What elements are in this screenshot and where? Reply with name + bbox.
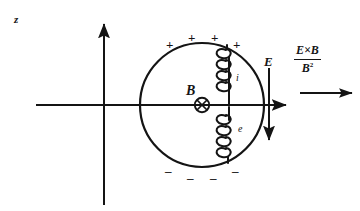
formula-numerator: E×B	[294, 44, 321, 60]
magnetic-field-label: B	[186, 84, 195, 98]
formula-denominator-base: B	[302, 61, 310, 75]
positive-charge-sign: +	[233, 38, 240, 51]
negative-charge-sign: –	[232, 164, 239, 177]
physics-diagram	[0, 0, 360, 211]
positive-charge-sign: +	[188, 31, 195, 44]
electron-label: e	[238, 124, 242, 134]
negative-charge-sign: –	[187, 171, 194, 184]
ion-label: i	[236, 73, 239, 83]
negative-charge-sign: –	[165, 164, 172, 177]
ion-helix-path	[217, 45, 231, 104]
formula-denominator: B2	[294, 60, 321, 76]
electric-field-label: E	[264, 55, 273, 68]
formula-denominator-exponent: 2	[310, 61, 314, 69]
negative-charge-sign: –	[210, 171, 217, 184]
positive-charge-sign: +	[211, 31, 218, 44]
electron-helix-path	[217, 107, 231, 163]
drift-velocity-formula: E×B B2	[294, 44, 321, 76]
z-axis-label: z	[14, 14, 18, 25]
positive-charge-sign: +	[166, 38, 173, 51]
